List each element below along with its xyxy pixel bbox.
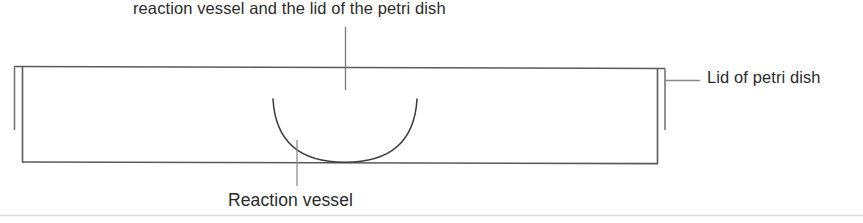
- lid-top-edge-line: [14, 67, 665, 69]
- petri-dish-lid-shape: [14, 67, 665, 164]
- label-reaction-vessel: Reaction vessel: [228, 191, 353, 209]
- label-lid-of-petri-dish: Lid of petri dish: [707, 69, 821, 86]
- diagram-canvas: reaction vessel and the lid of the petri…: [0, 0, 863, 223]
- petri-dish-cross-section-diagram: [0, 0, 863, 223]
- lid-rim-ticks: [15, 67, 666, 131]
- reaction-vessel-parabola-shape: [273, 99, 417, 162]
- label-reaction-vessel-and-lid: reaction vessel and the lid of the petri…: [133, 0, 446, 17]
